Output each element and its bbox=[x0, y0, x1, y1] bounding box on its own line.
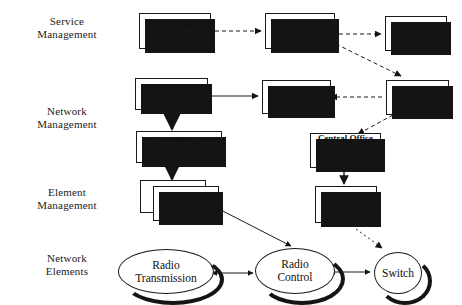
layer-label-service-management: Service Management bbox=[18, 15, 116, 41]
ellipse-radio-control-label: Radio Control bbox=[277, 258, 312, 283]
box-switch-em[interactable]: Switch EM bbox=[315, 186, 377, 223]
box-force[interactable]: Force bbox=[262, 80, 331, 114]
box-billing[interactable]: Billing bbox=[385, 16, 447, 51]
ellipse-radio-transmission[interactable]: Radio Transmission bbox=[118, 249, 214, 294]
ellipse-switch[interactable]: Switch bbox=[374, 252, 422, 294]
ellipse-radio-transmission-label: Radio Transmission bbox=[135, 259, 197, 284]
box-surveillance[interactable]: Surveillance bbox=[135, 78, 208, 110]
box-radio-network-management-label: Radio Network Management bbox=[143, 135, 215, 160]
box-service-request-label: Service Request bbox=[280, 19, 319, 44]
conn-radio-em-to-radio-control bbox=[213, 206, 291, 246]
box-radio-em[interactable]: Radio EM bbox=[153, 186, 219, 221]
conn-switch-em-to-switch bbox=[356, 229, 382, 248]
box-surveillance-label: Surveillance bbox=[142, 88, 201, 100]
box-billing-label: Billing bbox=[399, 27, 434, 39]
box-force-label: Force bbox=[282, 91, 311, 103]
box-radio-em-label: Radio EM bbox=[171, 191, 201, 216]
box-customer-contact[interactable]: Customer Contact bbox=[139, 13, 211, 49]
box-activation-control[interactable]: Activation Control bbox=[386, 80, 449, 115]
layer-label-network-management: Network Management bbox=[18, 105, 116, 131]
box-activation-control-label: Activation Control bbox=[392, 85, 442, 110]
diagram-canvas: Service Management Network Management El… bbox=[0, 0, 462, 305]
box-central-office-assignment[interactable]: Central Office Assignment bbox=[310, 133, 381, 168]
box-switch-em-label: Switch EM bbox=[329, 192, 364, 217]
box-central-office-assignment-line1: Central Office bbox=[318, 133, 373, 143]
box-radio-network-management[interactable]: Radio Network Management bbox=[136, 131, 222, 163]
box-customer-contact-label: Customer Contact bbox=[152, 19, 199, 44]
box-central-office-assignment-line2: Assignment bbox=[318, 156, 373, 168]
layer-label-network-elements: Network Elements bbox=[18, 252, 116, 278]
ellipse-switch-label: Switch bbox=[382, 267, 414, 280]
box-service-request[interactable]: Service Request bbox=[265, 13, 335, 49]
ellipse-radio-control[interactable]: Radio Control bbox=[255, 248, 335, 294]
box-central-office-assignment-label: Central Office Assignment bbox=[316, 121, 375, 180]
layer-label-element-management: Element Management bbox=[18, 186, 116, 212]
